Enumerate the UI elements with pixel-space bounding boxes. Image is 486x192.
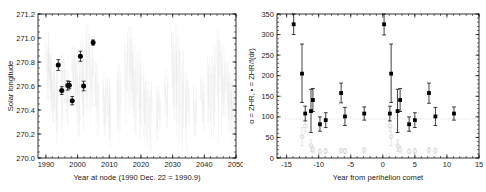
- zhr-corrected-point-group: [309, 89, 313, 132]
- right-y-axis-title: o = ZHR, ▪ = ZHR/f(dr): [247, 48, 256, 124]
- zhr-point-group: [413, 149, 417, 154]
- y-tick-label: 350: [261, 10, 273, 19]
- marker-filled-square: [311, 98, 315, 102]
- panel-left-svg: 1990200020102020203020402050270.0270.227…: [0, 0, 243, 192]
- x-tick-label: 2020: [133, 160, 149, 169]
- y-tick-label: 0: [270, 154, 274, 163]
- x-tick-label: 2000: [69, 160, 85, 169]
- marker-filled-circle: [78, 54, 83, 59]
- x-tick-label: 2030: [164, 160, 180, 169]
- panel-solar-longitude: 1990200020102020203020402050270.0270.227…: [0, 0, 243, 192]
- marker-filled-square: [362, 112, 366, 116]
- right-filled-square-series: [292, 14, 456, 132]
- zhr-point-group: [318, 149, 322, 154]
- marker-filled-square: [339, 91, 343, 95]
- marker-filled-square: [407, 122, 411, 126]
- zhr-point-group: [396, 140, 400, 152]
- zhr-corrected-point-group: [343, 107, 347, 125]
- right-tick-labels: -15-10-5051015050100150200250300350: [261, 10, 483, 169]
- x-tick-label: 0: [381, 160, 385, 169]
- zhr-point-group: [339, 148, 343, 153]
- zhr-point-group: [300, 128, 304, 146]
- data-point-group: [78, 51, 83, 61]
- marker-filled-square: [309, 109, 313, 113]
- y-tick-label: 100: [261, 112, 273, 121]
- y-tick-label: 270.6: [16, 82, 35, 91]
- y-tick-label: 271.0: [16, 34, 35, 43]
- zhr-corrected-point-group: [398, 88, 402, 111]
- y-tick-label: 200: [261, 71, 273, 80]
- x-tick-label: 10: [443, 160, 451, 169]
- zhr-point-group: [407, 149, 411, 154]
- marker-filled-circle: [70, 98, 75, 103]
- marker-filled-square: [398, 98, 402, 102]
- zhr-corrected-point-group: [362, 107, 366, 120]
- zhr-point-group: [433, 148, 437, 153]
- right-axis-ticks: [277, 14, 479, 158]
- zhr-point-group: [362, 148, 366, 153]
- x-tick-label: -10: [313, 160, 324, 169]
- marker-filled-square: [318, 122, 322, 126]
- y-tick-label: 300: [261, 30, 273, 39]
- y-tick-label: 50: [266, 133, 274, 142]
- y-tick-label: 250: [261, 51, 273, 60]
- zhr-corrected-point-group: [388, 106, 392, 121]
- data-point-group: [81, 81, 86, 91]
- y-tick-label: 270.2: [16, 130, 35, 139]
- figure-two-panel-scatter: 1990200020102020203020402050270.0270.227…: [0, 0, 486, 192]
- marker-filled-square: [303, 112, 307, 116]
- y-tick-label: 270.0: [16, 154, 35, 163]
- y-tick-label: 150: [261, 92, 273, 101]
- marker-filled-circle: [59, 88, 64, 93]
- marker-filled-square: [433, 115, 437, 119]
- zhr-point-group: [343, 149, 347, 154]
- marker-filled-square: [388, 112, 392, 116]
- left-y-axis-title: Solar longitude: [6, 61, 15, 112]
- marker-filled-square: [343, 115, 347, 119]
- right-plot-frame: [277, 14, 479, 158]
- zhr-corrected-point-group: [324, 113, 328, 128]
- marker-filled-square: [413, 118, 417, 122]
- right-x-axis-title: Year from perihelion comet: [333, 173, 424, 182]
- y-tick-label: 270.4: [16, 106, 35, 115]
- data-point-group: [70, 96, 75, 104]
- zhr-corrected-point-group: [339, 83, 343, 103]
- data-point-group: [59, 87, 64, 95]
- x-tick-label: -5: [347, 160, 354, 169]
- x-tick-label: -15: [281, 160, 292, 169]
- marker-filled-circle: [67, 83, 72, 88]
- x-tick-label: 2040: [196, 160, 212, 169]
- zhr-corrected-point-group: [413, 113, 417, 128]
- data-point-group: [91, 40, 96, 45]
- zhr-corrected-point-group: [433, 107, 437, 125]
- marker-filled-square: [452, 112, 456, 116]
- marker-filled-square: [300, 72, 304, 76]
- zhr-corrected-point-group: [427, 83, 431, 103]
- zhr-corrected-point-group: [389, 44, 393, 102]
- marker-filled-square: [292, 22, 296, 26]
- zhr-point-group: [427, 148, 431, 153]
- y-tick-label: 271.2: [16, 10, 35, 19]
- zhr-corrected-point-group: [396, 89, 400, 132]
- x-tick-label: 2010: [101, 160, 117, 169]
- marker-filled-square: [324, 118, 328, 122]
- marker-filled-circle: [91, 40, 96, 45]
- zhr-point-group: [324, 149, 328, 154]
- zhr-corrected-point-group: [300, 44, 304, 102]
- zhr-corrected-point-group: [311, 88, 315, 111]
- left-x-axis-title: Year at node (1990 Dec. 22 = 1990.9): [73, 173, 200, 182]
- x-tick-label: 1990: [38, 160, 54, 169]
- marker-filled-square: [396, 109, 400, 113]
- panel-right-svg: -15-10-5051015050100150200250300350 Year…: [243, 0, 486, 192]
- marker-filled-square: [427, 91, 431, 95]
- zhr-corrected-point-group: [452, 107, 456, 120]
- zhr-point-group: [303, 120, 307, 132]
- marker-filled-circle: [81, 84, 86, 89]
- marker-filled-square: [389, 72, 393, 76]
- zhr-corrected-point-group: [292, 14, 296, 35]
- marker-filled-square: [382, 22, 386, 26]
- left-background-streaks: [45, 24, 234, 158]
- x-tick-label: 15: [475, 160, 483, 169]
- panel-zhr: -15-10-5051015050100150200250300350 Year…: [243, 0, 486, 192]
- y-tick-label: 270.8: [16, 58, 35, 67]
